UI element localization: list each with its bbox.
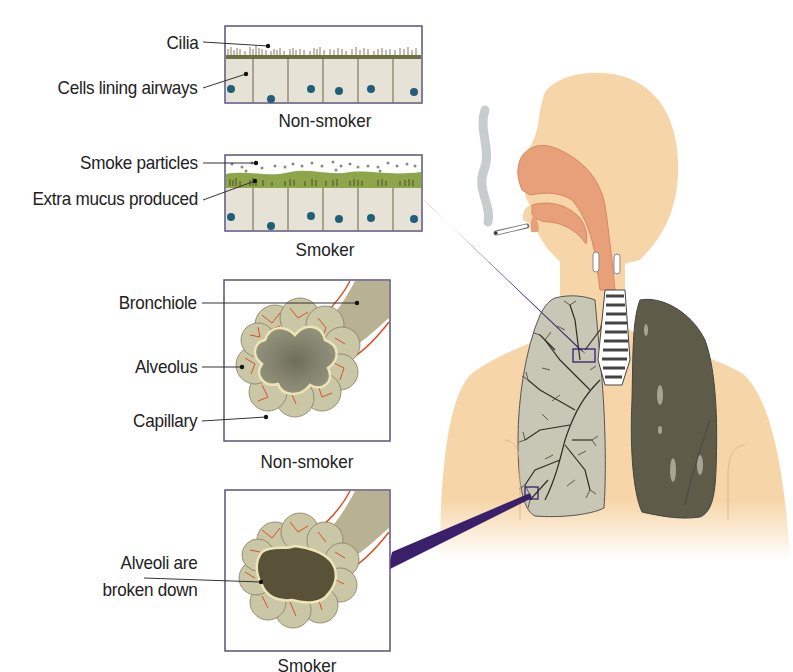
caption-airway-non-smoker: Non-smoker [253, 111, 397, 130]
diagram-artwork [0, 0, 793, 672]
caption-airway-smoker: Smoker [253, 240, 397, 259]
label-alveoli-broken-down-line1: Alveoli are [120, 553, 197, 572]
label-extra-mucus-produced: Extra mucus produced [32, 189, 198, 208]
label-alveolus: Alveolus [135, 357, 197, 376]
panel-alveoli-non-smoker [202, 280, 390, 441]
label-capillary: Capillary [133, 411, 197, 430]
cigarette [494, 226, 527, 235]
label-alveoli-broken-down-line2: broken down [102, 580, 197, 599]
label-smoke-particles: Smoke particles [80, 153, 198, 172]
caption-alveoli-non-smoker: Non-smoker [235, 452, 379, 471]
label-cells-lining-airways: Cells lining airways [58, 78, 198, 97]
panel-airway-smoker [203, 155, 422, 231]
panel-airway-non-smoker [203, 26, 422, 103]
label-bronchiole: Bronchiole [119, 293, 197, 312]
caption-alveoli-smoker: Smoker [235, 656, 379, 672]
label-cilia: Cilia [166, 33, 198, 52]
